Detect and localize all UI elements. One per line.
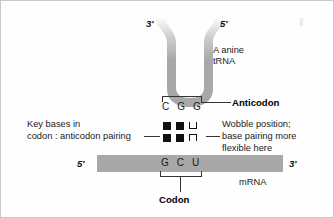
wobble-line2: base pairing more — [222, 131, 296, 143]
wobble-line1: Wobble position; — [222, 119, 291, 131]
codon-label: Codon — [159, 194, 189, 205]
anticodon-bases: C G G — [162, 101, 203, 112]
mrna-prime-5: 5′ — [77, 158, 85, 169]
pairing-caption-line1: Key bases in — [27, 119, 80, 131]
pairing-symbols-bottom-row — [163, 134, 197, 142]
wobble-line3: flexible here — [222, 143, 272, 155]
filled-square-icon — [176, 134, 184, 142]
anticodon-leader-line — [201, 102, 231, 103]
codon-bracket — [160, 171, 202, 177]
wobble-leader-line — [206, 136, 220, 137]
mrna-prime-3: 3′ — [289, 158, 297, 169]
scan-artifact-mark: ‖ — [299, 15, 304, 29]
trna-prime-3: 3′ — [146, 18, 154, 29]
trna-name-line1: A anine — [213, 45, 244, 57]
trna-prime-5: 5′ — [220, 18, 228, 29]
filled-square-icon — [163, 134, 171, 142]
filled-square-icon — [163, 122, 171, 130]
anticodon-label: Anticodon — [232, 97, 279, 108]
figure-canvas: ‖ 3′ 5′ A anine tRNA C G G Anticodon — [0, 0, 334, 218]
trna-name-line2: tRNA — [213, 56, 235, 68]
open-u-icon — [189, 122, 197, 129]
codon-bases: G C U — [161, 157, 202, 168]
filled-square-icon — [176, 122, 184, 130]
pairing-caption-line2: codon : anticodon pairing — [27, 131, 131, 143]
open-n-icon — [189, 134, 197, 141]
pairing-caption-leader-line — [144, 136, 160, 137]
pairing-symbols-top-row — [163, 122, 197, 130]
mrna-strand-label: mRNA — [239, 177, 266, 189]
codon-leader-line — [180, 176, 181, 192]
